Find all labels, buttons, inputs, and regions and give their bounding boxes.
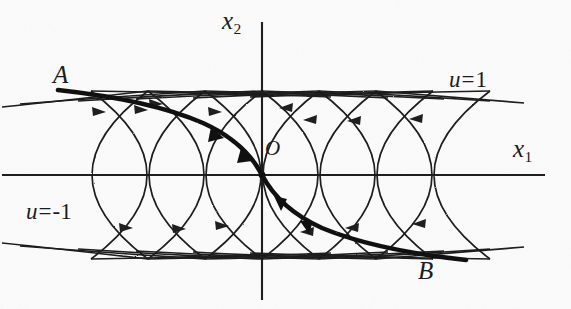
phase-portrait-figure: x2 x1 O A B u=1 u=-1 [0, 0, 571, 309]
control-u-plus-1-label: u=1 [449, 68, 487, 91]
arrowhead [409, 114, 423, 123]
arrowhead [215, 221, 229, 230]
arrowhead [208, 107, 222, 116]
y-axis-label: x2 [222, 8, 241, 36]
arrowhead [92, 107, 106, 116]
control-u-minus-1-label: u=-1 [26, 200, 72, 223]
phase-portrait-canvas [0, 0, 571, 309]
origin-node [259, 172, 266, 179]
arrowhead [345, 223, 359, 232]
arrowhead [412, 219, 426, 228]
x-axis-label: x1 [513, 136, 532, 164]
origin-label: O [265, 138, 280, 159]
point-a-label: A [53, 62, 68, 87]
switching-curve-upper-branch-A [58, 90, 262, 175]
arrowhead [303, 115, 317, 124]
arrowhead [119, 223, 133, 232]
point-b-label: B [418, 258, 433, 283]
